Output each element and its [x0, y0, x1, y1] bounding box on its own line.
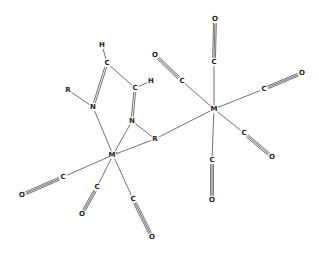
- bond-M2-Ch: [115, 159, 132, 195]
- bond-Cc-Oc: [268, 76, 298, 89]
- bond-M1-Cd: [217, 112, 240, 131]
- atom-label-Of: O: [19, 191, 25, 199]
- atom-label-Ob: O: [152, 51, 158, 59]
- atom-label-Cf: C: [60, 173, 65, 181]
- bond-Ch-Oh: [135, 203, 150, 233]
- bond-Cc-Oc: [268, 75, 298, 88]
- atom-label-Oa: O: [212, 15, 218, 23]
- atom-label-R1: R: [65, 86, 71, 94]
- atom-label-C1: C: [104, 59, 109, 67]
- atom-label-R2: R: [152, 135, 158, 143]
- atom-label-Oc: O: [299, 69, 305, 77]
- bond-Cb-Ob: [158, 58, 179, 78]
- chemical-structure-diagram: MM'HCHCRNNRCOCOCOCOCOCOCOCO: [0, 0, 319, 255]
- bond-Cg-Og: [83, 190, 94, 210]
- atom-label-Cc: C: [261, 85, 266, 93]
- bond-Ca-Oa: [213, 23, 214, 58]
- atom-label-C2: C: [132, 84, 137, 92]
- bond-M1-Ce: [212, 113, 214, 156]
- bond-N2-M2: [115, 125, 130, 152]
- atom-label-Ce: C: [209, 156, 214, 164]
- bond-Cg-Og: [85, 191, 96, 211]
- bond-R1-N1: [71, 92, 89, 104]
- bond-Cd-Od: [246, 137, 268, 156]
- bond-Ch-Oh: [136, 202, 151, 232]
- bond-Cb-Ob: [159, 57, 180, 77]
- bond-Cf-Of: [25, 177, 58, 192]
- atoms-layer: MM'HCHCRNNRCOCOCOCOCOCOCOCO: [19, 15, 305, 241]
- bond-M1-Cc: [218, 91, 260, 108]
- atom-label-H2: H: [148, 77, 154, 85]
- bond-Cf-Of: [26, 180, 59, 195]
- atom-label-Oh: O: [149, 233, 155, 241]
- atom-label-M1: M: [211, 105, 218, 113]
- bond-Cc-Oc: [267, 73, 297, 86]
- bond-N1-M2: [95, 111, 112, 151]
- bond-M2-Cf: [67, 157, 109, 176]
- atom-label-Ca: C: [211, 58, 216, 66]
- bond-C1-C2: [110, 66, 132, 85]
- bond-Cg-Og: [84, 191, 95, 211]
- atom-label-M2: M': [108, 151, 117, 159]
- bond-M2-R2: [117, 140, 151, 153]
- bond-M2-Cg: [99, 159, 111, 183]
- bond-Cd-Od: [247, 136, 269, 155]
- bond-Cd-Od: [248, 135, 270, 154]
- atom-label-Oe: O: [209, 196, 215, 204]
- bonds-layer: [25, 23, 298, 234]
- atom-label-Og: O: [79, 210, 85, 218]
- bond-Ch-Oh: [134, 203, 149, 233]
- bond-Cb-Ob: [157, 59, 178, 79]
- bond-Ca-Oa: [215, 23, 216, 58]
- bond-N2-R2: [135, 124, 151, 137]
- bond-Cf-Of: [26, 179, 59, 194]
- bond-M1-Cb: [185, 84, 211, 106]
- bond-C2-H2: [139, 83, 147, 87]
- bond-Ca-Oa: [214, 23, 215, 58]
- molecule-drawing: MM'HCHCRNNRCOCOCOCOCOCOCOCO: [0, 0, 319, 255]
- bond-R2-M1: [159, 111, 211, 137]
- bond-C1-N1: [95, 67, 106, 103]
- bond-C1-N1: [93, 67, 104, 103]
- atom-label-Od: O: [269, 153, 275, 161]
- atom-label-Cb: C: [179, 77, 184, 85]
- atom-label-Ch: C: [130, 195, 135, 203]
- atom-label-H1: H: [99, 41, 105, 49]
- bond-H1-C1: [103, 49, 106, 59]
- atom-label-N2: N: [129, 117, 135, 125]
- atom-label-Cg: C: [94, 183, 99, 191]
- atom-label-Cd: C: [241, 129, 246, 137]
- atom-label-N1: N: [90, 103, 96, 111]
